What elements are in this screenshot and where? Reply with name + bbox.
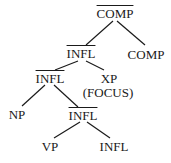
tree-edge	[54, 85, 78, 107]
tree-edge	[117, 21, 145, 45]
node-np: NP	[9, 108, 26, 121]
tree-edges	[0, 0, 171, 163]
node-infl-bar-low: INFL	[69, 109, 98, 122]
node-xp: XP	[101, 72, 118, 85]
node-focus-annotation: (FOCUS)	[83, 86, 134, 99]
node-infl-bar-top: INFL	[67, 47, 96, 60]
tree-edge	[86, 61, 104, 70]
tree-edge	[22, 85, 45, 106]
tree-edge	[87, 122, 110, 138]
tree-edge	[54, 122, 80, 138]
node-infl: INFL	[100, 140, 129, 153]
node-comp-bar: COMP	[97, 7, 134, 20]
tree-edge	[86, 21, 113, 45]
node-vp: VP	[42, 140, 59, 153]
node-infl-bar-mid: INFL	[36, 72, 65, 85]
tree-edge	[55, 61, 78, 70]
node-comp: COMP	[128, 48, 165, 61]
